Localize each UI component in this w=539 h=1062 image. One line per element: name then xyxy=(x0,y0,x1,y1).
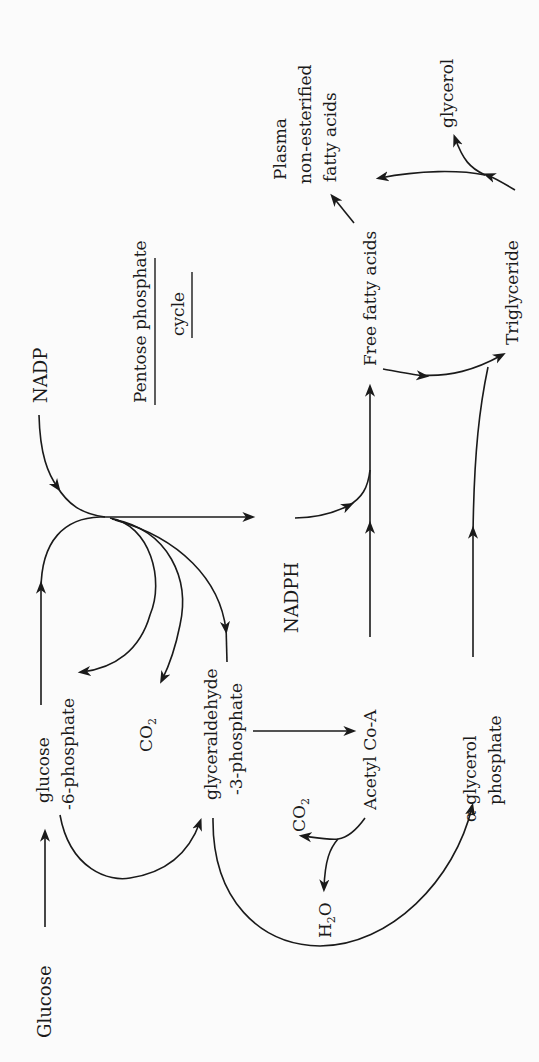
curve-acetyl-branch xyxy=(338,818,365,839)
plasma-label-line2: non-esterified xyxy=(295,64,315,184)
curve-ffa-to-tg xyxy=(420,355,502,375)
pentose-cycle-line2: cycle xyxy=(168,292,188,336)
triglyceride-label: Triglyceride xyxy=(502,240,522,345)
curve-nadph-join xyxy=(348,470,370,506)
plasma-label-line1: Plasma xyxy=(270,118,290,180)
gap-label-line1: glyceraldehyde xyxy=(201,668,221,800)
glycerol-label: glycerol xyxy=(437,59,457,128)
stem-to-gap xyxy=(226,625,227,662)
metabolic-pathway-diagram: Glucose glucose -6-phosphate NADP Pentos… xyxy=(0,0,539,1062)
nadph-label: NADPH xyxy=(281,562,302,633)
free-fatty-acids-label: Free fatty acids xyxy=(360,231,380,366)
pentose-cycle-line1: Pentose phosphate xyxy=(130,240,150,403)
curve-g6p-to-hub xyxy=(41,517,100,590)
curve-nadp-hub xyxy=(56,485,105,517)
gap-label-line2: -3-phosphate xyxy=(226,683,246,795)
arrow-gap-to-agp xyxy=(213,807,472,946)
co2-pentose-label: CO2 xyxy=(136,718,159,752)
svg-text:CO2: CO2 xyxy=(136,718,159,752)
arrow-acetyl-to-co2 xyxy=(303,836,338,839)
arrow-hub-to-gap xyxy=(115,520,226,630)
arrow-hub-to-g6p xyxy=(82,518,156,672)
h2o-label: H2O xyxy=(315,902,338,938)
svg-text:CO2: CO2 xyxy=(289,798,312,832)
glucose-label: Glucose xyxy=(34,965,55,1038)
agp-label-line1: α-glycerol xyxy=(460,735,480,822)
arrow-nadph-to-ffa xyxy=(295,505,350,518)
arrow-ffa-to-plasma xyxy=(333,197,354,223)
arrow-tg-branch xyxy=(487,175,515,190)
g6p-label-line2: -6-phosphate xyxy=(58,698,78,810)
arrow-tg-to-glycerol xyxy=(455,138,485,175)
g6p-label-line1: glucose xyxy=(33,737,53,803)
nadp-label: NADP xyxy=(30,348,51,403)
svg-text:H2O: H2O xyxy=(315,902,338,938)
acetyl-coa-label: Acetyl Co-A xyxy=(360,709,380,811)
agp-label-line2: phosphate xyxy=(485,715,505,805)
arrow-g6p-to-gap xyxy=(60,815,200,879)
arrow-ffa-to-tg xyxy=(383,369,425,376)
arrow-acetyl-to-h2o xyxy=(324,839,338,888)
pentose-cycle-label: Pentose phosphate cycle xyxy=(130,240,192,405)
arrow-tg-to-ffa xyxy=(380,172,485,178)
co2-acetyl-label: CO2 xyxy=(289,798,312,832)
line-agp-to-tg xyxy=(473,367,488,535)
arrow-nadp-to-hub xyxy=(39,415,58,488)
plasma-label-line3: fatty acids xyxy=(320,92,340,182)
